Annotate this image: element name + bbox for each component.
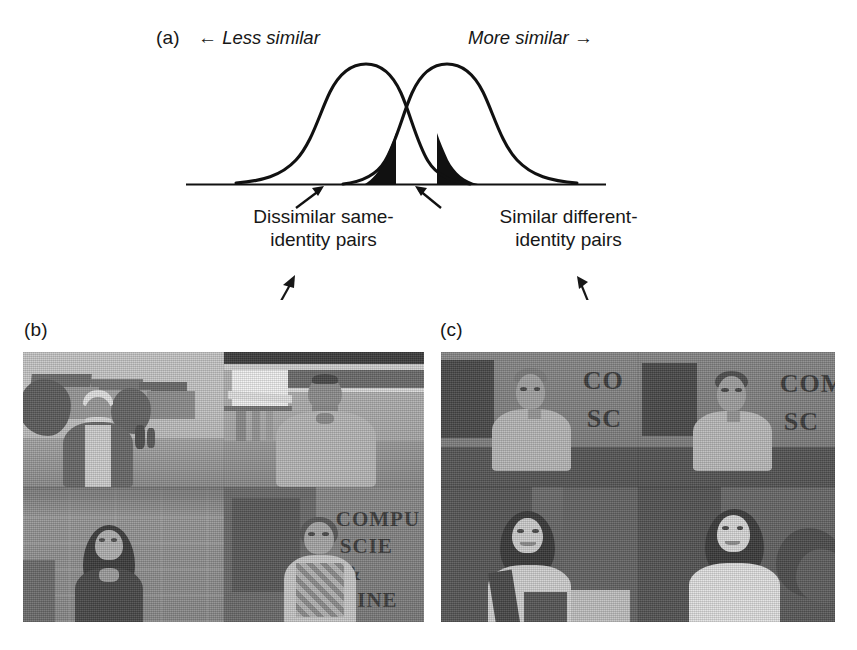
- photo-c-bottom-left: [441, 487, 638, 622]
- panel-b-photo-grid: COMPU SCIE & NGINE: [23, 352, 424, 622]
- wall-sign-line-1: COMPU: [336, 509, 420, 530]
- annotation-similar-different-identity: Similar different- identity pairs: [466, 205, 671, 251]
- panel-c-label: (c): [440, 320, 463, 339]
- photo-b-bottom-left: [23, 487, 224, 622]
- annotation-dissimilar-same-identity: Dissimilar same- identity pairs: [221, 205, 426, 251]
- wall-sign-c-tr-line2: SC: [784, 409, 819, 436]
- pointer-arrow-panel-b: [256, 275, 295, 300]
- photo-c-bottom-right: [638, 487, 835, 622]
- pointer-arrow-panel-c: [577, 276, 607, 300]
- panel-a-distributions: (a) ← Less similar More similar →: [0, 0, 857, 300]
- photo-b-bottom-right: COMPU SCIE & NGINE: [224, 487, 425, 622]
- photo-c-top-right: COM SC: [638, 352, 835, 487]
- panel-b-label: (b): [24, 320, 48, 339]
- curve-left-distribution: [236, 64, 470, 184]
- photo-c-top-left: CO SC: [441, 352, 638, 487]
- annotation-left-line2: identity pairs: [221, 228, 426, 251]
- wall-sign-line-2: SCIE: [340, 536, 393, 557]
- wall-sign-c-tl-line2: SC: [587, 406, 622, 433]
- annotation-right-line1: Similar different-: [466, 205, 671, 228]
- annotation-right-line2: identity pairs: [466, 228, 671, 251]
- annotation-left-line1: Dissimilar same-: [221, 205, 426, 228]
- distribution-curves: [0, 0, 857, 300]
- curve-right-distribution: [343, 64, 577, 184]
- figure-root: (a) ← Less similar More similar →: [0, 0, 857, 650]
- photo-b-top-right: [224, 352, 425, 487]
- wall-sign-c-tl-line1: CO: [583, 368, 624, 395]
- wall-sign-c-tr-line1: COM: [780, 371, 835, 398]
- panel-c-photo-grid: CO SC COM SC: [441, 352, 835, 622]
- photo-b-top-left: [23, 352, 224, 487]
